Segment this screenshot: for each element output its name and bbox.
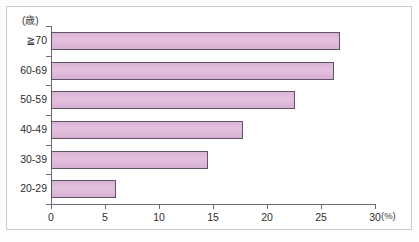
x-axis-tick <box>321 205 322 209</box>
bar <box>51 180 116 198</box>
y-axis-tick <box>46 145 51 146</box>
bar <box>51 151 208 169</box>
x-axis-tick-label: 15 <box>198 211 228 223</box>
x-axis-tick-label: 25 <box>306 211 336 223</box>
x-axis-tick-label: 30 <box>360 211 390 223</box>
y-axis-tick <box>46 26 51 27</box>
x-axis-tick <box>267 205 268 209</box>
y-axis-tick <box>46 85 51 86</box>
y-axis-tick <box>46 56 51 57</box>
y-axis-tick <box>46 174 51 175</box>
y-axis-tick-label: 60-69 <box>3 64 47 76</box>
bar <box>51 91 295 109</box>
y-axis-tick-label: ≧70 <box>3 34 47 46</box>
y-axis-unit-label: (歳) <box>22 12 39 27</box>
x-axis-tick-label: 10 <box>144 211 174 223</box>
x-axis-tick-label: 5 <box>90 211 120 223</box>
y-axis-tick-label: 30-39 <box>3 153 47 165</box>
x-axis-tick <box>51 205 52 209</box>
x-axis-tick-label: 0 <box>36 211 66 223</box>
x-axis-tick <box>105 205 106 209</box>
bar <box>51 62 334 80</box>
x-axis-tick <box>213 205 214 209</box>
x-axis-tick <box>159 205 160 209</box>
y-axis-tick-label: 20-29 <box>3 182 47 194</box>
bar-chart-figure: (歳) (%) 20-2930-3940-4950-5960-69≧70 051… <box>0 0 419 242</box>
y-axis-tick-label: 50-59 <box>3 93 47 105</box>
y-axis-tick-label: 40-49 <box>3 123 47 135</box>
y-axis-line <box>51 26 52 205</box>
bar <box>51 121 243 139</box>
bar <box>51 32 340 50</box>
y-axis-tick <box>46 115 51 116</box>
x-axis-tick <box>375 205 376 209</box>
x-axis-tick-label: 20 <box>252 211 282 223</box>
